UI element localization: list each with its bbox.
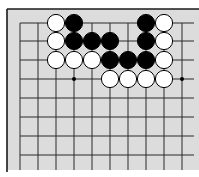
black-stone (65, 32, 82, 49)
go-board (0, 0, 199, 177)
black-stone (101, 51, 118, 68)
black-stone (137, 51, 154, 68)
white-stone (155, 51, 172, 68)
black-stone (101, 32, 118, 49)
black-stone (83, 32, 100, 49)
star-point (72, 77, 76, 81)
black-stone (65, 14, 82, 31)
black-stone (137, 14, 154, 31)
black-stone (119, 51, 136, 68)
white-stone (83, 51, 100, 68)
white-stone (47, 14, 64, 31)
white-stone (101, 70, 118, 87)
white-stone (65, 51, 82, 68)
white-stone (137, 70, 154, 87)
white-stone (155, 14, 172, 31)
white-stone (119, 70, 136, 87)
white-stone (47, 32, 64, 49)
white-stone (155, 70, 172, 87)
star-point (180, 77, 184, 81)
board-background (7, 9, 199, 170)
white-stone (47, 51, 64, 68)
black-stone (137, 32, 154, 49)
white-stone (155, 32, 172, 49)
